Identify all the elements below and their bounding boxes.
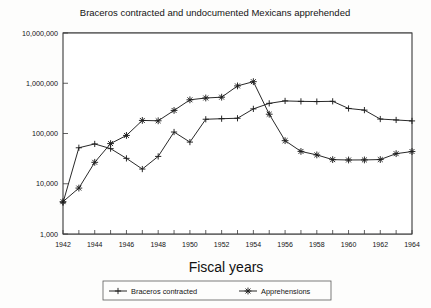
x-axis-tick-label: 1960 <box>341 241 357 248</box>
x-axis-tick-label: 1956 <box>277 241 293 248</box>
x-axis-tick-label: 1950 <box>182 241 198 248</box>
y-axis-tick-label: 1,000 <box>40 230 58 239</box>
legend-label: Apprehensions <box>261 287 311 296</box>
y-axis-tick-label: 10,000 <box>36 179 58 188</box>
plus-marker-icon <box>109 288 127 294</box>
chart-legend: Braceros contractedApprehensions <box>103 281 331 300</box>
chart-title: Braceros contracted and undocumented Mex… <box>80 7 350 18</box>
asterisk-marker-icon <box>239 288 257 295</box>
legend-item-apprehensions[interactable]: Apprehensions <box>239 287 311 296</box>
y-axis-tick-label: 100,000 <box>32 129 58 138</box>
x-axis-label: Fiscal years <box>189 259 264 275</box>
x-axis-tick-label: 1944 <box>87 241 103 248</box>
x-axis-tick-label: 1948 <box>150 241 166 248</box>
y-axis-tick-labels: 1,00010,000100,0001,000,00010,000,000 <box>22 29 68 239</box>
chart-container: Braceros contracted and undocumented Mex… <box>0 0 431 308</box>
legend-item-braceros-contracted[interactable]: Braceros contracted <box>109 287 197 296</box>
x-axis-tick-label: 1952 <box>214 241 230 248</box>
legend-label: Braceros contracted <box>131 287 197 296</box>
x-axis-tick-label: 1946 <box>119 241 135 248</box>
x-axis-tick-label: 1964 <box>404 241 420 248</box>
y-axis-tick-label: 10,000,000 <box>22 29 58 38</box>
log-line-chart: Braceros contracted and undocumented Mex… <box>0 0 431 308</box>
x-axis-tick-label: 1942 <box>55 241 71 248</box>
y-axis-tick-label: 1,000,000 <box>26 79 58 88</box>
x-axis-tick-labels: 1942194419461948195019521954195619581960… <box>55 241 420 248</box>
x-axis-tick-label: 1962 <box>372 241 388 248</box>
x-axis-tick-label: 1954 <box>246 241 262 248</box>
plot-frame <box>63 33 412 234</box>
x-axis-tick-label: 1958 <box>309 241 325 248</box>
